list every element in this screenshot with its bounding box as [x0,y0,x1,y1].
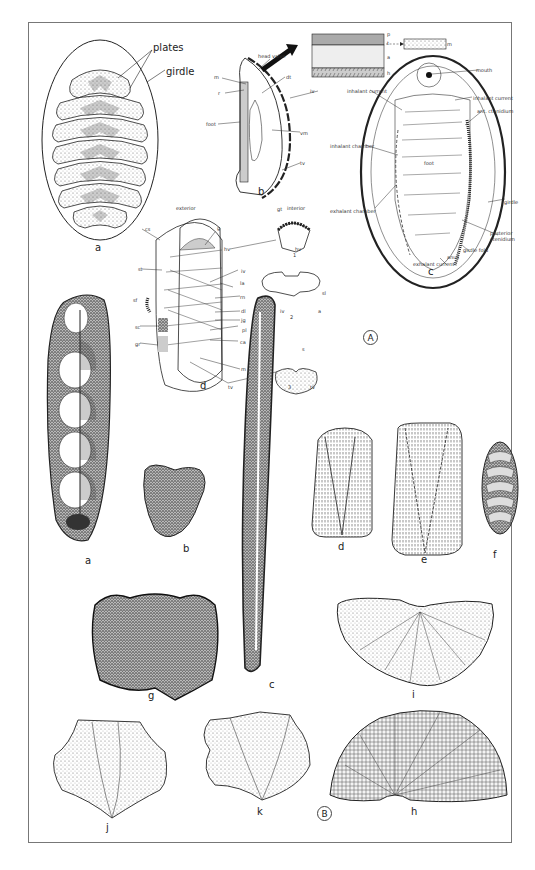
label-b-r: r [218,90,220,96]
label-d-dl: dl [241,308,246,314]
fig-b-j-valve [54,720,167,818]
label-inhalant-current-right: inhalant current [473,95,513,101]
label-d-sc: sc [135,324,140,330]
label-layer-h: h [387,70,390,76]
fig-a-chiton-dorsal [42,40,165,240]
label-d-ca: ca [240,339,246,345]
label-plates: plates [153,42,184,53]
label-d-sub-3: 3 [288,384,291,390]
label-anus: anus [447,254,459,260]
label-b-tv: tv [300,160,305,166]
label-d-tv: tv [228,384,233,390]
label-d-tv-3: tv [310,384,315,390]
label-d-m: m [241,366,246,372]
label-b-iv: iv [310,88,314,94]
label-b-m: m [214,74,219,80]
label-d-s: s [302,346,305,352]
fig-b-a-letter: a [85,555,91,566]
label-d-hv: hv [224,246,230,252]
label-d-g: g [217,225,220,231]
label-exhalant-chamber: exhalant chamber [330,208,376,214]
fig-b-i-valve [337,598,493,685]
fig-b-e-valve [392,423,462,555]
label-d-iv: iv [241,268,245,274]
label-exhalant-current: exhalant current [413,261,454,267]
section-a-marker: A [363,330,378,345]
fig-b-g-letter: g [148,690,154,701]
label-layer-t: t [387,40,389,46]
label-c-foot: foot [424,160,434,166]
label-d-a: a [318,308,321,314]
label-d-pl: pl [242,327,247,333]
fig-b-e-letter: e [421,554,427,565]
label-d-sub-1: 1 [293,252,296,258]
label-inhalant-current-left: inhalant current [347,88,387,94]
fig-b-b-valve [144,465,205,537]
label-posterior-ctenidium: posterior ctenidium [490,230,516,242]
label-interior: interior [287,205,305,211]
fig-a-d-letter: d [200,380,206,391]
fig-b-h-letter: h [411,806,417,817]
fig-b-f-chiton [482,442,518,534]
fig-b-k-valve [204,712,310,800]
label-d-sub-2: 2 [290,314,293,320]
label-head-valve: head valve [258,53,286,59]
label-d-cs: cs [145,226,150,232]
label-d-st: st [138,266,143,272]
label-girdle: girdle [166,66,194,77]
fig-b-i-letter: i [412,689,415,700]
label-d-rn: rn [240,294,245,300]
label-mouth: mouth [476,67,492,73]
fig-b-a-chiton [47,295,110,541]
label-ant-ctenidium: ant. ctenidium [477,108,513,114]
label-d-la: la [240,280,244,286]
fig-b-k-letter: k [257,806,263,817]
label-d-sl: sl [322,290,326,296]
label-layer-p: p [387,31,390,37]
label-d-iv-2: iv [280,308,284,314]
label-girdle-fold: girdle fold [463,247,488,253]
label-c-girdle: girdle [504,199,518,205]
label-d-gt: gt [277,206,282,212]
label-b-foot: foot [206,121,216,127]
label-b-vm: vm [300,130,308,136]
fig-b-g-valve [92,594,217,700]
label-layer-m: m [447,41,452,47]
fig-b-b-letter: b [183,543,189,554]
label-inhalant-chamber: inhalant chamber [330,143,374,149]
label-d-sf: sf [133,297,137,303]
fig-b-f-letter: f [493,549,497,560]
plate-illustrations [0,0,535,870]
label-b-dt: dt [286,74,291,80]
fig-b-d-letter: d [338,541,344,552]
fig-b-d-valve [312,428,372,537]
fig-a-c-letter: c [428,266,434,277]
label-layer-a: a [387,54,390,60]
label-exterior: exterior [176,205,196,211]
label-d-jg: jg [241,317,246,323]
fig-b-j-letter: j [106,822,109,833]
fig-b-c-letter: c [269,679,275,690]
fig-b-h-valve [330,711,507,802]
fig-b-c-elongate-chiton [243,296,276,671]
label-d-gr: gr [135,341,140,347]
fig-a-a-letter: a [95,242,101,253]
fig-a-b-letter: b [258,186,264,197]
section-b-marker: B [317,806,332,821]
